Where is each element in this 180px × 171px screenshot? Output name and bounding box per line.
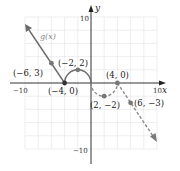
point-neg2-2: [75, 67, 80, 72]
point-2-neg2: [102, 94, 107, 99]
axes: [10, 5, 166, 164]
point-4-0: [115, 81, 120, 86]
point-neg6-3: [49, 61, 54, 66]
label-p4: (4, 0): [106, 70, 129, 80]
function-label: g(x): [40, 32, 56, 41]
label-p1: (−6, 3): [13, 68, 43, 78]
label-p3: (−4, 0): [48, 86, 78, 96]
y-axis-label: y: [94, 3, 101, 13]
g-arrow-icon: [25, 24, 32, 32]
function-graph: −10 10 x 10 y −10 g(x) (−6, 3) (−2, 2) (…: [0, 0, 180, 171]
label-p6: (6, −3): [134, 98, 164, 108]
y-axis-arrow-icon: [89, 5, 94, 12]
point-neg4-0: [62, 81, 67, 86]
label-p5: (2, −2): [90, 100, 120, 110]
point-6-neg3: [128, 100, 133, 105]
x-max-label: 10: [153, 87, 162, 95]
x-axis-label: x: [162, 85, 167, 95]
y-min-label: −10: [73, 147, 88, 155]
x-min-label: −10: [13, 87, 28, 95]
label-p2: (−2, 2): [58, 58, 88, 68]
y-max-label: 10: [80, 15, 89, 23]
